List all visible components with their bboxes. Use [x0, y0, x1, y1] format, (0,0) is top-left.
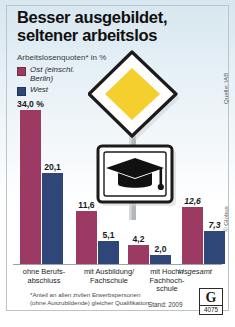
- globus-logo-number: 4075: [200, 305, 222, 314]
- stand-date: Stand: 2009: [148, 301, 182, 308]
- bar-1-west: [42, 173, 63, 264]
- bar-value-3-west: 2,0: [144, 244, 177, 254]
- bar-4-west: [204, 231, 225, 264]
- bar-4-ost: [182, 207, 203, 264]
- bar-2-west: [98, 241, 119, 264]
- globus-infographic: Besser ausgebildet, seltener arbeitslos …: [0, 0, 235, 327]
- bar-value-1-west: 20,1: [36, 162, 69, 172]
- bar-1-ost: [20, 110, 41, 264]
- copyright-label: © Globus: [222, 206, 229, 232]
- source-label: Quelle: IAB: [222, 73, 229, 104]
- bar-value-3-ost: 4,2: [122, 234, 155, 244]
- bar-3-west: [150, 255, 171, 264]
- chart-baseline: [13, 264, 222, 265]
- bar-value-1-ost: 34,0 %: [14, 99, 47, 109]
- bar-value-2-west: 5,1: [92, 230, 125, 240]
- category-label-4: insgesamt: [164, 268, 226, 277]
- footnote-line-1: *Anteil an allen zivilen Erwerbspersonen: [30, 291, 180, 299]
- globus-logo: G 4075: [199, 288, 223, 315]
- bar-value-2-ost: 11,6: [70, 200, 103, 210]
- bar-value-4-ost: 12,6: [176, 196, 209, 206]
